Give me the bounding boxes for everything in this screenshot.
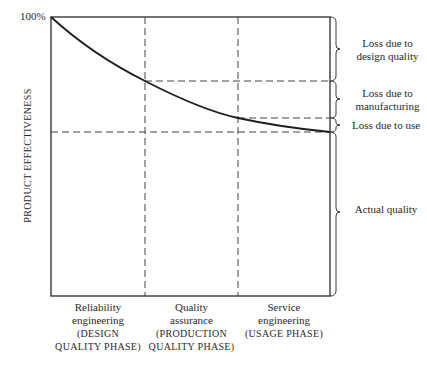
plot-frame xyxy=(51,17,330,296)
phase-label-design: Reliability engineering (DESIGN QUALITY … xyxy=(51,301,145,353)
bracket-label-manufacturing: Loss due to manufacturing xyxy=(350,87,425,113)
brace-design xyxy=(330,17,340,81)
brace-use xyxy=(330,118,340,132)
y-top-tick-label: 100% xyxy=(20,10,46,23)
brace-actual xyxy=(330,132,340,296)
phase-label-production: Quality assurance (PRODUCTION QUALITY PH… xyxy=(145,301,238,353)
brace-manufacturing xyxy=(330,81,340,118)
bracket-label-design: Loss due to design quality xyxy=(350,37,425,63)
y-axis-label: PRODUCT EFFECTIVENESS xyxy=(22,81,33,231)
braces xyxy=(330,17,340,296)
phase-label-usage: Service engineering (USAGE PHASE) xyxy=(238,301,330,340)
effectiveness-curve xyxy=(51,17,330,132)
bracket-label-use: Loss due to use xyxy=(346,119,426,132)
bracket-label-actual: Actual quality xyxy=(346,203,426,216)
